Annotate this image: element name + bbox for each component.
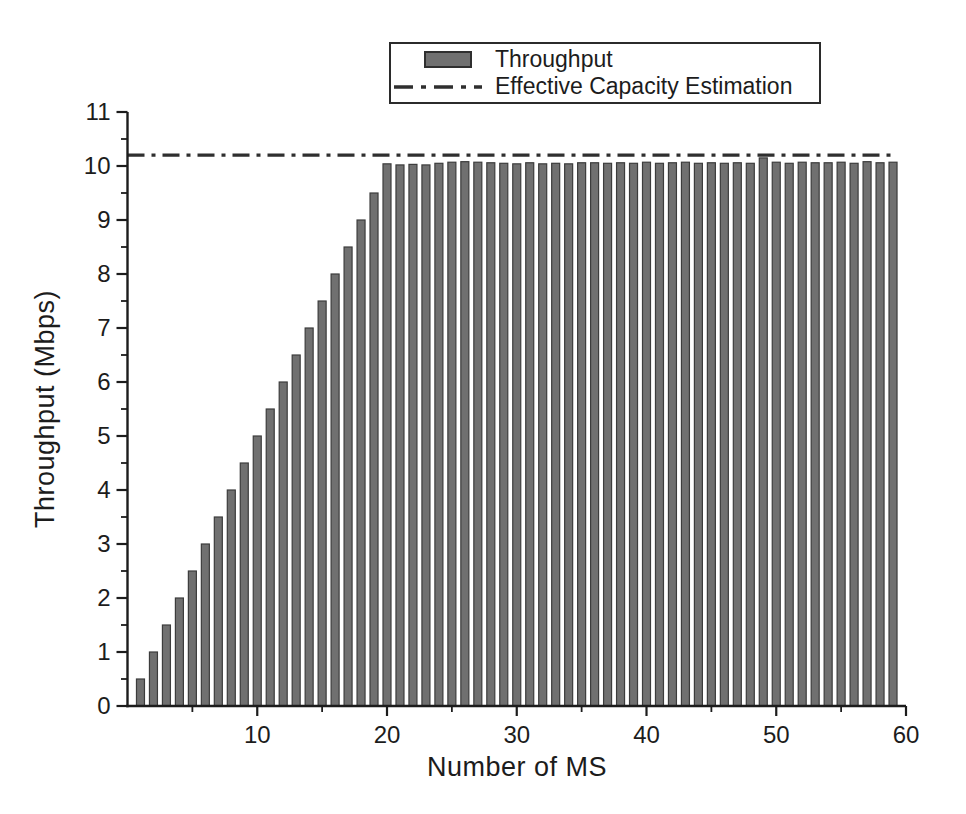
bar <box>539 164 547 706</box>
bar <box>474 162 482 706</box>
legend-sample-area <box>391 83 491 91</box>
y-tick-label: 11 <box>86 98 111 125</box>
bar-chart-canvas: 01234567891011102030405060 <box>0 0 966 814</box>
y-tick-label: 5 <box>97 422 110 449</box>
x-axis-title: Number of MS <box>128 752 906 783</box>
bar <box>461 162 469 706</box>
bar <box>175 598 183 706</box>
bar <box>785 163 793 706</box>
bar <box>396 165 404 706</box>
bar <box>759 158 767 706</box>
bar <box>772 162 780 706</box>
bar <box>591 163 599 706</box>
bar <box>344 247 352 706</box>
bar <box>643 162 651 706</box>
y-tick-label: 4 <box>97 476 110 503</box>
x-tick-label: 60 <box>893 721 920 748</box>
bar <box>798 162 806 706</box>
bar <box>383 164 391 706</box>
y-tick-label: 2 <box>97 584 110 611</box>
bar <box>331 274 339 706</box>
bar <box>149 652 157 706</box>
bar <box>630 163 638 706</box>
y-tick-label: 8 <box>97 260 110 287</box>
bar <box>292 355 300 706</box>
legend-sample-area <box>391 51 491 68</box>
bar <box>746 163 754 706</box>
bar <box>409 164 417 706</box>
bar <box>668 163 676 706</box>
bar <box>513 164 521 706</box>
bar <box>707 163 715 706</box>
bar <box>279 382 287 706</box>
y-tick-label: 3 <box>97 530 110 557</box>
bar <box>227 490 235 706</box>
bar <box>448 162 456 706</box>
throughput-bar-chart-figure: 01234567891011102030405060 Throughput Ef… <box>0 0 966 814</box>
bar <box>655 163 663 706</box>
x-tick-label: 20 <box>374 721 401 748</box>
y-tick-label: 7 <box>97 314 110 341</box>
bar <box>214 517 222 706</box>
y-axis-title: Throughput (Mbps) <box>30 290 61 528</box>
bar <box>837 162 845 706</box>
bar <box>850 163 858 706</box>
x-tick-label: 30 <box>503 721 530 748</box>
bar <box>733 163 741 706</box>
bar <box>694 163 702 706</box>
bar <box>863 162 871 706</box>
bar <box>357 220 365 706</box>
dash-dot-line-icon <box>393 83 483 91</box>
legend-item-throughput: Throughput <box>391 48 819 72</box>
bar <box>552 163 560 706</box>
bar <box>526 163 534 706</box>
bar <box>201 544 209 706</box>
x-tick-label: 40 <box>633 721 660 748</box>
bar <box>824 163 832 706</box>
bar <box>266 409 274 706</box>
bar <box>487 163 495 706</box>
y-tick-label: 1 <box>97 638 110 665</box>
bar <box>876 163 884 706</box>
bar <box>811 163 819 706</box>
bar <box>240 463 248 706</box>
y-tick-label: 6 <box>97 368 110 395</box>
bar <box>253 436 261 706</box>
bar <box>370 193 378 706</box>
bar <box>681 162 689 706</box>
legend-label-throughput: Throughput <box>495 46 613 73</box>
bar <box>500 163 508 706</box>
bar <box>422 165 430 706</box>
bar <box>305 328 313 706</box>
y-tick-label: 0 <box>97 692 110 719</box>
chart-legend: Throughput Effective Capacity Estimation <box>389 42 821 104</box>
bar <box>604 163 612 706</box>
x-tick-label: 50 <box>763 721 790 748</box>
bar <box>720 163 728 706</box>
y-tick-label: 10 <box>84 152 111 179</box>
bar-swatch-icon <box>424 51 472 68</box>
bar <box>162 625 170 706</box>
legend-item-effective-capacity: Effective Capacity Estimation <box>391 75 819 99</box>
legend-label-effective-capacity: Effective Capacity Estimation <box>495 73 792 100</box>
bar <box>435 163 443 706</box>
bar <box>188 571 196 706</box>
x-tick-label: 10 <box>244 721 271 748</box>
bar <box>578 163 586 706</box>
bar <box>617 163 625 706</box>
y-tick-label: 9 <box>97 206 110 233</box>
bar <box>565 164 573 706</box>
bar <box>318 301 326 706</box>
bar <box>889 162 897 706</box>
bar <box>136 679 144 706</box>
